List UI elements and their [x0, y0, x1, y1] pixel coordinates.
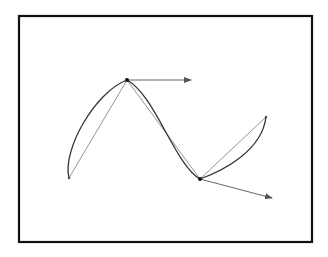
- node-start: [68, 177, 71, 180]
- diagram-canvas: [0, 0, 328, 257]
- frame-border: [19, 16, 312, 242]
- node-end: [265, 116, 268, 119]
- node-peak: [125, 78, 129, 82]
- node-valley: [198, 177, 202, 181]
